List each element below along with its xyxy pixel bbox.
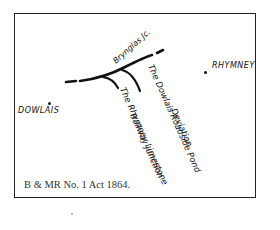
limestone-branch	[103, 77, 118, 88]
main-line-dash-end	[157, 50, 163, 53]
junction-label: Brynglas Jc.	[111, 27, 152, 65]
railway-map: Brynglas Jc. The Dowlais Roadside Pond D…	[0, 0, 280, 230]
map-caption: B & MR No. 1 Act 1864.	[24, 179, 130, 190]
scan-speck	[71, 213, 73, 215]
limestone-label-line2: Railway Junction	[128, 112, 166, 180]
dowlais-dot	[48, 102, 51, 105]
dowlais-label: DOWLAIS	[18, 106, 59, 115]
main-line-dash	[66, 81, 76, 82]
rhymney-dot	[204, 71, 207, 74]
rhymney-label: RHYMNEY	[212, 61, 255, 70]
